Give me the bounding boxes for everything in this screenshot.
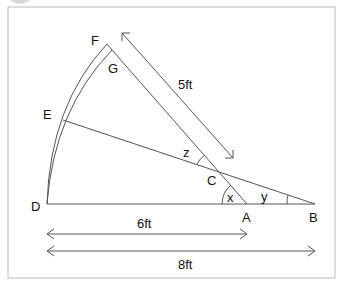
measure-label-6ft: 6ft	[137, 216, 152, 231]
angle-label-x: x	[227, 190, 234, 205]
point-label-c: C	[207, 173, 216, 188]
point-label-e: E	[43, 107, 52, 122]
point-label-f: F	[91, 33, 99, 48]
point-label-b: B	[309, 210, 318, 225]
measure-label-8ft: 8ft	[178, 257, 193, 272]
measure-label-5ft: 5ft	[178, 77, 193, 92]
angle-label-y: y	[261, 189, 268, 204]
point-label-d: D	[31, 199, 40, 214]
diagram-frame	[8, 7, 335, 278]
point-label-a: A	[242, 210, 251, 225]
point-label-g: G	[108, 61, 118, 76]
geometry-diagram: F G E D C A B x y z 5ft 6ft 8ft	[0, 0, 339, 287]
angle-label-z: z	[183, 145, 190, 160]
